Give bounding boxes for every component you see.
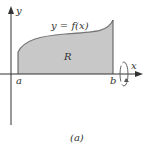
left-bound-label: a bbox=[16, 75, 22, 86]
right-bound-label: b bbox=[110, 75, 116, 86]
curve-label: y = f(x) bbox=[50, 20, 89, 31]
x-axis-arrow-icon bbox=[135, 71, 143, 77]
region-label: R bbox=[63, 51, 72, 62]
figure-caption: (a) bbox=[70, 132, 84, 143]
y-axis-arrow-icon bbox=[8, 6, 14, 14]
y-axis-label: y bbox=[15, 5, 22, 16]
diagram-canvas: y x y = f(x) R a b (a) bbox=[0, 0, 168, 147]
x-axis-label: x bbox=[131, 60, 137, 71]
rotation-arrowhead-icon bbox=[124, 78, 129, 82]
